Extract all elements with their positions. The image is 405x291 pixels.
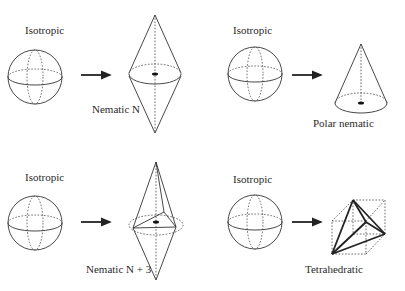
tetrahedron-cube-icon [332,200,385,254]
symmetry-diagram [0,0,405,291]
label-isotropic: Isotropic [25,24,64,36]
isotropic-sphere-icon [8,196,62,250]
label-isotropic: Isotropic [233,173,272,185]
panel-polar [228,44,387,113]
label-polar-nematic: Polar nematic [313,117,374,129]
label-nematic-n3: Nematic N + 3 [86,263,151,275]
label-isotropic: Isotropic [25,171,64,183]
label-tetrahedratic: Tetrahedratic [305,263,363,275]
label-isotropic: Isotropic [233,24,272,36]
label-nematic-n: Nematic N [92,103,140,115]
isotropic-sphere-icon [228,195,282,249]
panel-tetrahedratic [228,195,385,254]
isotropic-sphere-icon [8,50,62,104]
bicone-icon [129,15,181,133]
cone-icon [335,44,387,113]
isotropic-sphere-icon [228,47,282,101]
